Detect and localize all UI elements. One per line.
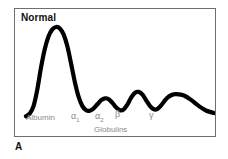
panel-letter-label: A — [15, 141, 22, 152]
region-label-alpha1: α1 — [71, 112, 80, 123]
region-label-gamma: γ — [149, 111, 154, 120]
electrophoresis-figure: Normal Albumin α1 α2 β γ Globulins A — [0, 0, 228, 159]
region-label-beta: β — [115, 110, 120, 119]
region-label-albumin: Albumin — [26, 113, 55, 122]
alpha2-subscript: 2 — [100, 117, 103, 123]
alpha1-subscript: 1 — [76, 117, 79, 123]
axis-label-globulins: Globulins — [94, 125, 127, 134]
plot-frame: Normal Albumin α1 α2 β γ Globulins — [14, 8, 216, 137]
trace-curve-path — [26, 27, 214, 116]
region-label-alpha2: α2 — [95, 112, 104, 123]
